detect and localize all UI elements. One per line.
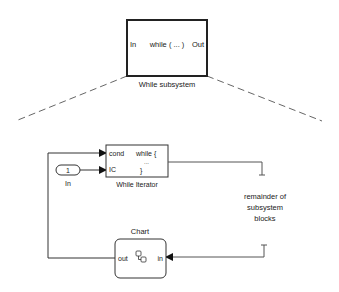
while-iterator-line1: while { bbox=[135, 150, 157, 158]
inport-number: 1 bbox=[66, 167, 70, 174]
while-iterator-block[interactable]: cond IC while { ... } bbox=[106, 145, 168, 177]
remainder-line1: remainder of bbox=[244, 192, 287, 201]
zoom-dashed-line-right bbox=[207, 76, 322, 121]
while-iterator-cond-port: cond bbox=[109, 150, 124, 157]
chart-caption: Chart bbox=[131, 227, 150, 236]
remainder-line2: subsystem bbox=[247, 203, 283, 212]
while-subsystem-in-port: In bbox=[130, 40, 136, 49]
chart-in-port: in bbox=[158, 255, 164, 262]
diagram-canvas: In while ( ... ) Out While subsystem 1 I… bbox=[0, 0, 339, 292]
chart-block[interactable]: out in bbox=[115, 239, 166, 278]
while-iterator-ic-port: IC bbox=[109, 166, 116, 173]
inport-block[interactable]: 1 bbox=[56, 165, 80, 175]
inport-caption: In bbox=[65, 180, 71, 187]
chart-input-line[interactable] bbox=[166, 245, 264, 257]
remainder-placeholder: remainder of subsystem blocks bbox=[244, 192, 287, 223]
while-subsystem-body: while ( ... ) bbox=[149, 40, 185, 49]
while-subsystem-caption: While subsystem bbox=[139, 80, 196, 89]
while-iterator-caption: While Iterator bbox=[116, 181, 158, 188]
iterator-output-line[interactable] bbox=[168, 162, 262, 175]
while-subsystem-block[interactable]: In while ( ... ) Out bbox=[127, 20, 207, 76]
while-iterator-line2: ... bbox=[144, 159, 149, 165]
remainder-line3: blocks bbox=[254, 214, 276, 223]
zoom-dashed-line-left bbox=[18, 76, 127, 120]
while-subsystem-out-port: Out bbox=[192, 40, 205, 49]
chart-out-port: out bbox=[118, 255, 128, 262]
